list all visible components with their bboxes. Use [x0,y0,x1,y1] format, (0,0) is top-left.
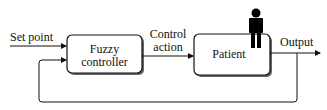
control-action-line2: action [142,41,194,54]
output-label: Output [280,36,313,49]
fuzzy-controller-label: Fuzzy controller [67,43,142,69]
patient-label: Patient [194,48,264,61]
block-diagram [0,0,327,110]
set-point-label: Set point [10,31,53,44]
fuzzy-controller-line2: controller [67,56,142,69]
control-action-label: Control action [142,28,194,54]
